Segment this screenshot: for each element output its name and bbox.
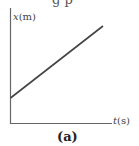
data-line <box>11 26 104 98</box>
figure-caption: (a) <box>57 129 78 144</box>
y-axis-label: x(m) <box>13 11 36 22</box>
x-axis-label: t(s) <box>113 115 130 126</box>
